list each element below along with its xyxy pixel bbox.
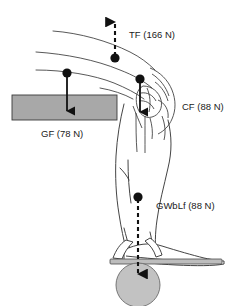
foot-plate-rect	[110, 259, 222, 264]
support-bar-group	[12, 95, 117, 120]
biomechanics-figure: TF (166 N) CF (88 N) GF (78 N) GWbLf (88…	[0, 0, 239, 306]
support-bar-rect	[12, 95, 117, 120]
foot-plate	[110, 259, 222, 264]
label-gf: GF (78 N)	[41, 128, 83, 139]
tf-origin-dot	[110, 53, 119, 62]
label-gwblf: GWbLf (88 N)	[156, 200, 215, 211]
force-diagram-root: TF (166 N) CF (88 N) GF (78 N) GWbLf (88…	[0, 0, 239, 306]
label-tf: TF (166 N)	[129, 29, 175, 40]
label-cf: CF (88 N)	[182, 101, 224, 112]
cf-origin-dot	[135, 74, 144, 83]
gf-origin-dot	[62, 68, 71, 77]
gwblf-origin-dot	[133, 192, 142, 201]
